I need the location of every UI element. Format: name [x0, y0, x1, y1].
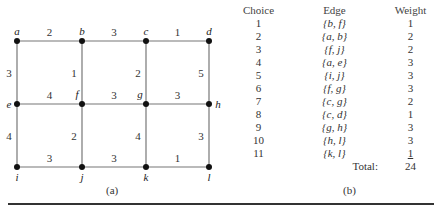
total-row: Total:24	[232, 160, 437, 173]
vertex-label-j: j	[78, 171, 83, 183]
edge-weight-label: 4	[135, 130, 141, 142]
graph-caption: (a)	[106, 184, 118, 196]
edge-cell: {b, f}	[285, 17, 384, 30]
edge-weight-label: 4	[47, 89, 53, 101]
header-choice: Choice	[232, 4, 285, 17]
vertex-c	[143, 38, 149, 44]
weight-cell: 3	[384, 82, 437, 95]
table-row: 9{g, h}3	[232, 121, 437, 134]
edge-weight-label: 3	[111, 89, 117, 101]
vertex-label-l: l	[207, 171, 210, 183]
header-edge: Edge	[285, 4, 384, 17]
edge-cell: {c, g}	[285, 95, 384, 108]
vertex-label-d: d	[206, 25, 212, 37]
weight-cell: 2	[384, 30, 437, 43]
weight-cell: 3	[384, 56, 437, 69]
vertex-h	[206, 101, 212, 107]
edge-cell: {a, e}	[285, 56, 384, 69]
edge-cell: {i, j}	[285, 69, 384, 82]
grid-graph-figure: 23131254334243331abcdefghijkl	[0, 0, 230, 200]
weight-cell: 1	[384, 108, 437, 121]
weight-cell: 2	[384, 95, 437, 108]
vertex-i	[14, 164, 20, 170]
table-row: 2{a, b}2	[232, 30, 437, 43]
vertex-label-a: a	[14, 25, 20, 37]
choice-cell: 10	[232, 134, 285, 147]
graph-drawing: 23131254334243331abcdefghijkl	[0, 0, 230, 200]
empty-cell	[232, 160, 285, 173]
weight-cell: 3	[384, 121, 437, 134]
weight-cell: 3	[384, 134, 437, 147]
edge-weight-label: 3	[198, 130, 204, 142]
table-row: 1{b, f}1	[232, 17, 437, 30]
table-row: 6{f, g}3	[232, 82, 437, 95]
vertex-label-i: i	[15, 171, 18, 183]
choice-cell: 4	[232, 56, 285, 69]
total-label: Total:	[285, 160, 384, 173]
choice-cell: 2	[232, 30, 285, 43]
table-row: 4{a, e}3	[232, 56, 437, 69]
weight-cell: 1	[384, 147, 437, 160]
header-weight: Weight	[384, 4, 437, 17]
weight-cell: 3	[384, 69, 437, 82]
edge-weight-label: 3	[175, 89, 181, 101]
edge-choice-table: Choice Edge Weight 1{b, f}12{a, b}23{f, …	[232, 4, 437, 173]
weight-cell: 2	[384, 43, 437, 56]
edge-cell: {g, h}	[285, 121, 384, 134]
vertex-b	[79, 38, 85, 44]
edge-cell: {c, d}	[285, 108, 384, 121]
vertex-f	[79, 101, 85, 107]
table-row: 7{c, g}2	[232, 95, 437, 108]
choice-cell: 11	[232, 147, 285, 160]
edge-weight-label: 2	[47, 26, 53, 38]
choice-cell: 9	[232, 121, 285, 134]
edge-cell: {h, l}	[285, 134, 384, 147]
choice-cell: 1	[232, 17, 285, 30]
edge-weight-label: 2	[135, 67, 141, 79]
edge-weight-label: 1	[175, 26, 181, 38]
table-row: 5{i, j}3	[232, 69, 437, 82]
edge-weight-label: 3	[47, 152, 53, 164]
edge-cell: {k, l}	[285, 147, 384, 160]
choice-cell: 7	[232, 95, 285, 108]
table-row: 3{f, j}2	[232, 43, 437, 56]
edge-cell: {f, g}	[285, 82, 384, 95]
vertex-label-g: g	[137, 88, 143, 100]
vertex-label-k: k	[144, 171, 150, 183]
table-row: 11{k, l}1	[232, 147, 437, 160]
edge-weight-label: 2	[71, 130, 77, 142]
bottom-rule	[8, 203, 434, 205]
total-value: 24	[384, 160, 437, 173]
vertex-label-h: h	[215, 98, 221, 110]
edge-weight-label: 5	[198, 67, 204, 79]
choice-cell: 8	[232, 108, 285, 121]
edge-weight-label: 3	[111, 26, 117, 38]
table-row: 10{h, l}3	[232, 134, 437, 147]
vertex-label-b: b	[79, 25, 85, 37]
vertex-d	[206, 38, 212, 44]
weight-cell: 1	[384, 17, 437, 30]
vertex-g	[143, 101, 149, 107]
table-row: 8{c, d}1	[232, 108, 437, 121]
vertex-label-e: e	[7, 98, 12, 110]
edge-cell: {a, b}	[285, 30, 384, 43]
edge-weight-label: 3	[6, 67, 12, 79]
choice-cell: 5	[232, 69, 285, 82]
vertex-a	[14, 38, 20, 44]
vertex-label-f: f	[75, 88, 80, 100]
vertex-j	[79, 164, 85, 170]
vertex-k	[143, 164, 149, 170]
edge-weight-label: 3	[111, 152, 117, 164]
edge-weight-label: 1	[175, 152, 181, 164]
vertex-l	[206, 164, 212, 170]
table-caption: (b)	[343, 184, 356, 196]
edge-weight-label: 1	[71, 67, 77, 79]
edge-weight-label: 4	[6, 130, 12, 142]
vertex-e	[14, 101, 20, 107]
choice-cell: 6	[232, 82, 285, 95]
edge-cell: {f, j}	[285, 43, 384, 56]
vertex-label-c: c	[144, 25, 149, 37]
choice-cell: 3	[232, 43, 285, 56]
